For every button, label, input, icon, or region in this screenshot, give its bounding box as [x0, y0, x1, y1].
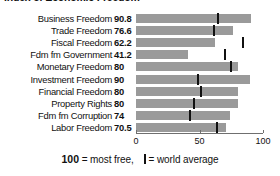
bar — [136, 87, 238, 96]
world-average-marker — [217, 13, 219, 24]
chart-row: Property Rights80 — [0, 98, 280, 110]
row-label-business-freedom: Business Freedom — [0, 13, 112, 25]
bar — [136, 14, 251, 23]
chart-row: Business Freedom90.8 — [0, 13, 280, 25]
row-value: 80 — [114, 61, 134, 73]
world-average-marker — [216, 122, 218, 133]
world-average-marker — [224, 49, 226, 60]
world-average-marker — [230, 61, 232, 72]
chart-row: Fdm fm Government41.2 — [0, 49, 280, 61]
row-value: 80 — [114, 98, 134, 110]
x-tick-label: 50 — [185, 135, 215, 147]
bar — [136, 62, 238, 71]
row-label-fiscal-freedom: Fiscal Freedom — [0, 37, 112, 49]
x-tick — [263, 130, 264, 133]
world-average-marker — [213, 25, 215, 36]
bar — [136, 111, 230, 120]
x-tick-label: 100 — [248, 135, 278, 147]
world-average-marker — [197, 74, 199, 85]
bar — [136, 123, 226, 132]
x-tick-label: 0 — [121, 135, 151, 147]
world-average-marker — [242, 37, 244, 48]
chart-row: Trade Freedom76.6 — [0, 25, 280, 37]
chart-legend: 100 = most free,= world average — [0, 151, 280, 167]
x-tick — [200, 130, 201, 133]
row-label-labor-freedom: Labor Freedom — [0, 122, 112, 134]
bar — [136, 75, 250, 84]
chart-row: Financial Freedom80 — [0, 86, 280, 98]
row-value: 90 — [114, 74, 134, 86]
row-value: 90.8 — [114, 13, 134, 25]
row-label-investment-freedom: Investment Freedom — [0, 74, 112, 86]
legend-world-average-text: = world average — [149, 154, 219, 165]
row-label-fdm-fm-corruption: Fdm fm Corruption — [0, 110, 112, 122]
row-label-monetary-freedom: Monetary Freedom — [0, 61, 112, 73]
chart-row: Monetary Freedom80 — [0, 61, 280, 73]
bar — [136, 26, 233, 35]
row-value: 80 — [114, 86, 134, 98]
row-label-fdm-fm-government: Fdm fm Government — [0, 49, 112, 61]
chart-row: Investment Freedom90 — [0, 74, 280, 86]
chart-row: Fdm fm Corruption74 — [0, 110, 280, 122]
world-average-marker — [200, 86, 202, 97]
row-value: 74 — [114, 110, 134, 122]
x-tick — [136, 130, 137, 133]
bar — [136, 50, 188, 59]
chart-row: Fiscal Freedom62.2 — [0, 37, 280, 49]
world-average-marker-icon — [144, 154, 146, 164]
row-value: 62.2 — [114, 37, 134, 49]
legend-most-free-text: = most free, — [79, 154, 134, 165]
row-label-trade-freedom: Trade Freedom — [0, 25, 112, 37]
world-average-marker — [193, 98, 195, 109]
row-value: 70.5 — [114, 122, 134, 134]
row-value: 76.6 — [114, 25, 134, 37]
row-value: 41.2 — [114, 49, 134, 61]
x-axis-line — [136, 133, 263, 134]
row-label-financial-freedom: Financial Freedom — [0, 86, 112, 98]
row-label-property-rights: Property Rights — [0, 98, 112, 110]
legend-most-free-value: 100 — [61, 153, 79, 165]
bar — [136, 38, 215, 47]
bar — [136, 99, 238, 108]
world-average-marker — [189, 110, 191, 121]
